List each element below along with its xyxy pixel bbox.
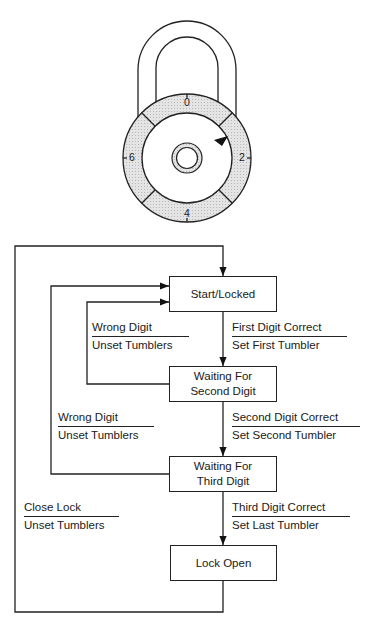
state-label: Start/Locked	[191, 287, 256, 302]
state-waiting-second-digit: Waiting For Second Digit	[169, 366, 277, 402]
transition-action: Set Last Tumbler	[232, 517, 350, 533]
transition-action: Set First Tumbler	[232, 337, 347, 353]
transition-event: Wrong Digit	[58, 410, 154, 427]
padlock-icon	[123, 21, 251, 222]
state-label-line2: Third Digit	[197, 474, 249, 489]
arrow-third-wrong-to-start	[51, 286, 169, 474]
transition-label-close-lock: Close Lock Unset Tumblers	[24, 500, 119, 533]
transition-event: Close Lock	[24, 500, 119, 517]
transition-event: Wrong Digit	[92, 320, 189, 337]
state-label-line2: Second Digit	[190, 384, 255, 399]
transition-event: Second Digit Correct	[232, 410, 360, 427]
transition-event: First Digit Correct	[232, 320, 347, 337]
transition-label-third-correct: Third Digit Correct Set Last Tumbler	[232, 500, 350, 533]
transition-action: Set Second Tumbler	[232, 427, 360, 443]
dial-number-0: 0	[184, 97, 190, 108]
transition-label-wrong-digit-1: Wrong Digit Unset Tumblers	[92, 320, 189, 353]
state-label: Lock Open	[196, 556, 252, 571]
state-lock-open: Lock Open	[170, 545, 277, 581]
dial-number-2: 2	[239, 152, 245, 163]
transition-label-second-correct: Second Digit Correct Set Second Tumbler	[232, 410, 360, 443]
transition-action: Unset Tumblers	[92, 337, 189, 353]
state-label-line1: Waiting For	[194, 459, 252, 474]
transition-action: Unset Tumblers	[24, 517, 119, 533]
dial-number-4: 4	[184, 208, 190, 219]
transition-label-wrong-digit-2: Wrong Digit Unset Tumblers	[58, 410, 154, 443]
transition-label-first-correct: First Digit Correct Set First Tumbler	[232, 320, 347, 353]
state-start-locked: Start/Locked	[169, 276, 277, 312]
diagram-canvas	[0, 0, 374, 630]
dial-number-6: 6	[129, 152, 135, 163]
state-waiting-third-digit: Waiting For Third Digit	[169, 456, 277, 492]
transition-event: Third Digit Correct	[232, 500, 350, 517]
state-label-line1: Waiting For	[194, 369, 252, 384]
transition-action: Unset Tumblers	[58, 427, 154, 443]
